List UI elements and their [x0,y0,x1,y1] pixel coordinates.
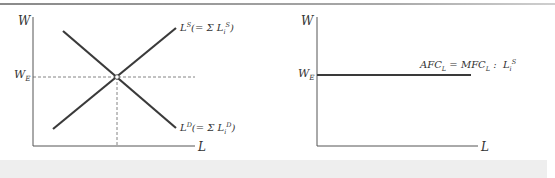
demand-curve [63,31,176,128]
supply-curve-label: LS(= Σ LiS) [180,22,234,36]
firm-axes [317,17,478,146]
market-x-axis-label: L [198,141,206,153]
demand-curve-label: LD(= Σ LiD) [180,122,235,136]
equilibrium-point [115,75,120,80]
market-y-axis-label: W [18,15,30,27]
market-equilibrium-wage-label: WE [14,69,31,82]
firm-x-axis-label: L [481,141,489,153]
firm-y-axis-label: W [301,15,313,27]
firm-equilibrium-wage-label: WE [298,68,315,81]
market-equilibrium-guides [33,77,195,146]
supply-curve [53,28,176,129]
diagram-canvas [0,0,555,178]
afc-mfc-label: AFCL = MFCL : LiS [420,59,516,73]
